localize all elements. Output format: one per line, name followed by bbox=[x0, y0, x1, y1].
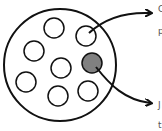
label-fragment: C bbox=[158, 4, 162, 14]
cell-circle bbox=[78, 81, 98, 101]
cell-circle bbox=[16, 72, 36, 92]
cell-circle bbox=[24, 41, 44, 61]
lower-arrow bbox=[96, 67, 150, 103]
label-fragment: J bbox=[158, 100, 161, 110]
label-fragment: t bbox=[158, 120, 162, 130]
cell-circle bbox=[51, 58, 71, 78]
label-fragment: p bbox=[158, 26, 162, 36]
cell-circle bbox=[44, 18, 64, 38]
cell-diagram bbox=[0, 0, 162, 131]
cell-circle bbox=[48, 86, 68, 106]
